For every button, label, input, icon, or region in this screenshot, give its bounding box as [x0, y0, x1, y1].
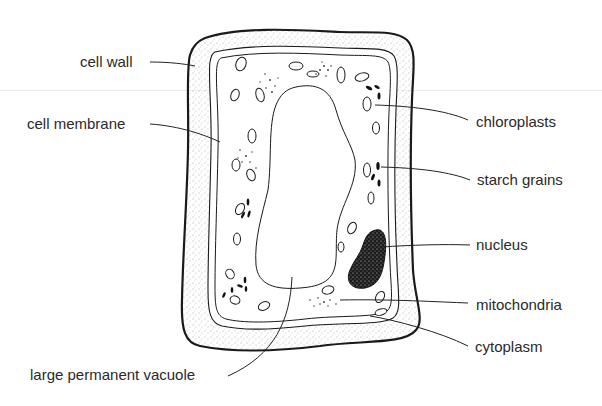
- label-cell-membrane: cell membrane: [27, 115, 125, 133]
- label-starch-grains: starch grains: [477, 171, 563, 189]
- label-large-permanent-vacuole: large permanent vacuole: [30, 366, 195, 384]
- label-cell-wall: cell wall: [80, 53, 133, 71]
- label-cytoplasm: cytoplasm: [475, 338, 543, 356]
- label-nucleus: nucleus: [476, 236, 528, 254]
- label-mitochondria: mitochondria: [476, 296, 562, 314]
- label-chloroplasts: chloroplasts: [476, 113, 556, 131]
